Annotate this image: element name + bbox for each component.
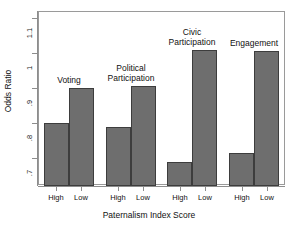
bar <box>106 127 131 186</box>
x-tick-label: High <box>110 193 125 202</box>
x-tick <box>205 186 206 191</box>
x-tick <box>267 186 268 191</box>
x-tick <box>180 186 181 191</box>
x-tick-label: Low <box>198 193 212 202</box>
x-tick-label: High <box>234 193 249 202</box>
x-axis-title: Paternalism Index Score <box>0 210 298 220</box>
y-tick-label: .9 <box>26 88 34 118</box>
bar <box>229 153 254 186</box>
group-caption: Political Participation <box>108 63 155 83</box>
group-caption: Civic Participation <box>169 27 216 47</box>
y-tick-label: 1.1 <box>26 18 34 48</box>
y-tick-label: 1 <box>26 53 34 83</box>
x-tick <box>56 186 57 191</box>
x-tick-label: Low <box>260 193 274 202</box>
x-tick-label: Low <box>136 193 150 202</box>
bar <box>69 88 94 186</box>
x-tick <box>81 186 82 191</box>
y-axis-title: Odds Ratio <box>3 61 13 121</box>
x-tick <box>118 186 119 191</box>
bar <box>131 86 156 186</box>
x-tick-label: High <box>48 193 63 202</box>
x-tick-label: High <box>172 193 187 202</box>
odds-ratio-bar-chart: Odds Ratio .7.8.911.1 VotingPolitical Pa… <box>0 0 298 230</box>
bar <box>192 50 217 186</box>
group-caption: Voting <box>57 75 81 85</box>
bar <box>167 162 192 186</box>
x-axis-line <box>38 186 285 187</box>
x-tick-label: Low <box>74 193 88 202</box>
bar <box>254 51 279 186</box>
x-tick <box>143 186 144 191</box>
y-tick-label: .8 <box>26 123 34 153</box>
y-tick-label: .7 <box>26 158 34 188</box>
bar <box>44 123 69 186</box>
group-caption: Engagement <box>230 38 278 48</box>
x-tick <box>242 186 243 191</box>
